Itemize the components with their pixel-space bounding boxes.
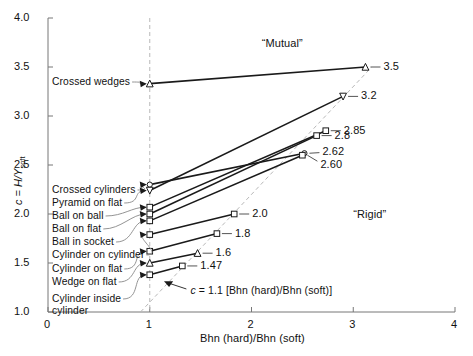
x-tick-label: 2 (248, 318, 254, 330)
y-tick-label: 1.5 (14, 256, 30, 268)
x-tick-label: 1 (146, 318, 152, 330)
series-name-label: Wedge on flat (52, 276, 117, 287)
y-tick-label: 1.0 (14, 305, 30, 317)
data-point-marker (214, 231, 220, 237)
series-name-label: cylinder (52, 305, 88, 316)
data-series-group (146, 63, 369, 277)
series-name-label: Crossed cylinders (52, 184, 136, 195)
data-point-marker (147, 182, 152, 187)
series-name-label: Ball on ball (52, 210, 104, 221)
series-name-label: Cylinder on cylinder (52, 249, 144, 260)
series-wedge-on-flat (146, 250, 201, 267)
data-point-marker (147, 204, 153, 210)
series-value-label: 1.47 (200, 259, 222, 271)
series-crossed-cylinders (147, 151, 307, 188)
series-name-label: Ball on flat (52, 223, 101, 234)
series-value-label: 2.62 (322, 145, 344, 157)
data-point-marker (147, 218, 153, 224)
rigid-region-label: “Rigid” (353, 208, 386, 220)
x-tick-label: 3 (349, 318, 355, 330)
data-point-marker (231, 211, 237, 217)
data-point-marker (340, 93, 347, 100)
series-name-label: Ball in socket (52, 236, 114, 247)
y-tick-label: 3.0 (14, 109, 30, 121)
y-tick-label: 3.5 (14, 60, 30, 72)
y-tick-label: 2.0 (14, 207, 30, 219)
series-value-label: 1.8 (235, 227, 251, 239)
data-point-marker (180, 263, 186, 269)
data-point-marker (147, 232, 153, 238)
series-value-label: 3.5 (383, 60, 399, 72)
series-ball-on-ball (147, 128, 329, 210)
series-value-label: 3.2 (361, 89, 377, 101)
series-cylinder-on-flat (147, 231, 220, 254)
series-value-label: 2.0 (252, 207, 268, 219)
x-axis-ticks (48, 307, 455, 312)
figure-container: c = H/Ysoft Bhn (hard)/Bhn (soft) 012341… (0, 0, 473, 356)
series-value-label: 1.6 (216, 246, 232, 258)
series-name-label: Crossed wedges (52, 76, 130, 87)
x-axis-title: Bhn (hard)/Bhn (soft) (200, 332, 305, 344)
data-point-marker (314, 133, 320, 139)
y-tick-label: 2.5 (14, 158, 30, 170)
equation-label: c = 1.1 [Bhn (hard)/Bhn (soft)] (190, 284, 332, 296)
y-tick-label: 4.0 (14, 11, 30, 23)
series-name-label: Cylinder on flat (52, 263, 122, 274)
data-point-marker (147, 211, 153, 217)
series-value-label: 2.8 (335, 129, 351, 141)
data-point-marker (323, 128, 329, 134)
data-point-marker (147, 272, 153, 278)
x-tick-label: 0 (44, 318, 50, 330)
mutual-region-label: “Mutual” (262, 37, 303, 49)
series-name-label: Cylinder inside (52, 293, 121, 304)
series-crossed-wedges (146, 63, 369, 86)
series-name-label: Pyramid on flat (52, 197, 122, 208)
x-tick-label: 4 (451, 318, 457, 330)
series-value-label: 2.60 (320, 158, 342, 170)
data-point-marker (300, 152, 306, 158)
data-point-marker (146, 187, 153, 194)
